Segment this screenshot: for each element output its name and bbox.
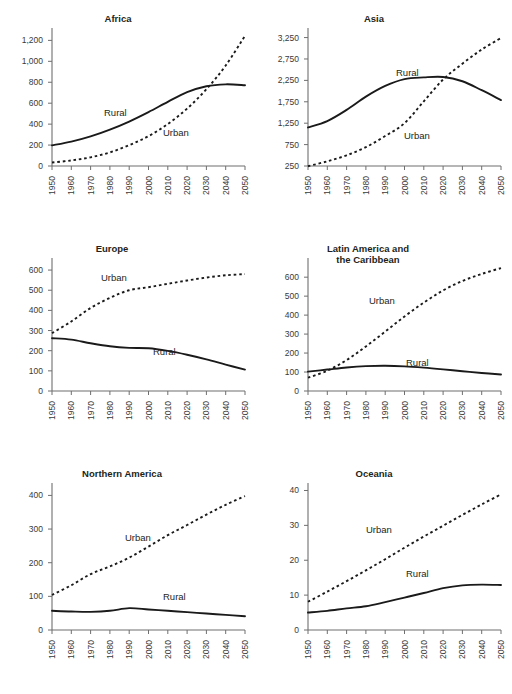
panel-title-line: the Caribbean: [336, 254, 400, 265]
y-tick-label: 2,750: [278, 54, 300, 64]
y-tick-label: 200: [29, 346, 43, 356]
y-tick-label: 1,200: [22, 35, 44, 45]
x-tick-label: 1960: [322, 401, 332, 420]
urban-series-label: Urban: [404, 130, 430, 141]
y-tick-label: 0: [294, 386, 299, 396]
y-tick-label: 200: [29, 140, 43, 150]
x-tick-label: 2010: [419, 401, 429, 420]
x-tick-label: 1990: [380, 401, 390, 420]
y-tick-label: 1,000: [22, 56, 44, 66]
x-tick-label: 1960: [66, 640, 76, 659]
chart-latin-america: Latin America andthe Caribbean0100200300…: [256, 230, 512, 455]
panel-asia: Asia2507501,2501,7502,2502,7503,25019501…: [256, 0, 512, 230]
panel-title: Africa: [105, 13, 133, 24]
x-tick-label: 2030: [457, 176, 467, 195]
x-tick-label: 2020: [182, 401, 192, 420]
x-tick-label: 1970: [86, 176, 96, 195]
y-tick-label: 200: [29, 558, 43, 568]
y-tick-label: 400: [285, 310, 299, 320]
x-tick-label: 1970: [342, 640, 352, 659]
x-tick-label: 1980: [361, 401, 371, 420]
x-tick-label: 1990: [124, 176, 134, 195]
rural-line: [52, 338, 245, 369]
panel-title: Asia: [364, 13, 385, 24]
x-tick-label: 2020: [438, 176, 448, 195]
x-tick-label: 2010: [419, 176, 429, 195]
rural-series-label: Rural: [104, 107, 127, 118]
x-tick-label: 2010: [163, 401, 173, 420]
y-tick-label: 0: [38, 161, 43, 171]
y-tick-label: 300: [29, 326, 43, 336]
urban-series-label: Urban: [366, 524, 392, 535]
x-tick-label: 2030: [201, 401, 211, 420]
x-tick-label: 2030: [201, 640, 211, 659]
x-tick-label: 2040: [477, 640, 487, 659]
panel-title: Europe: [96, 243, 129, 254]
urban-series-label: Urban: [369, 295, 395, 306]
urban-line: [308, 268, 501, 378]
x-tick-label: 2030: [457, 640, 467, 659]
x-tick-label: 2050: [496, 401, 506, 420]
rural-series-label: Rural: [396, 67, 419, 78]
panel-europe: Europe0100200300400500600195019601970198…: [0, 230, 256, 455]
y-tick-label: 1,750: [278, 97, 300, 107]
panel-africa: Africa02004006008001,0001,20019501960197…: [0, 0, 256, 230]
x-tick-label: 1990: [124, 640, 134, 659]
urban-line: [52, 36, 245, 163]
y-tick-label: 800: [29, 77, 43, 87]
rural-series-label: Rural: [153, 346, 176, 357]
y-tick-label: 400: [29, 490, 43, 500]
y-tick-label: 10: [290, 590, 300, 600]
x-tick-label: 1950: [303, 401, 313, 420]
x-tick-label: 1980: [105, 176, 115, 195]
y-tick-label: 3,250: [278, 33, 300, 43]
x-tick-label: 1960: [322, 176, 332, 195]
y-tick-label: 500: [29, 285, 43, 295]
x-tick-label: 1990: [124, 401, 134, 420]
rural-line: [52, 84, 245, 145]
x-tick-label: 1980: [361, 176, 371, 195]
x-tick-label: 2050: [496, 176, 506, 195]
x-tick-label: 2050: [240, 640, 250, 659]
x-tick-label: 2000: [144, 401, 154, 420]
x-tick-label: 2000: [400, 176, 410, 195]
x-tick-label: 2040: [221, 401, 231, 420]
chart-northern-america: Northern America010020030040019501960197…: [0, 455, 256, 694]
y-tick-label: 100: [285, 367, 299, 377]
x-tick-label: 2020: [182, 176, 192, 195]
y-tick-label: 30: [290, 520, 300, 530]
x-tick-label: 1950: [47, 401, 57, 420]
x-tick-label: 1990: [380, 176, 390, 195]
x-tick-label: 2020: [438, 401, 448, 420]
y-tick-label: 600: [285, 272, 299, 282]
x-tick-label: 2000: [144, 176, 154, 195]
panel-title: Oceania: [356, 468, 394, 479]
y-tick-label: 300: [285, 329, 299, 339]
rural-line: [308, 366, 501, 375]
urban-series-label: Urban: [125, 532, 151, 543]
panel-oceania: Oceania010203040195019601970198019902000…: [256, 455, 512, 694]
y-tick-label: 100: [29, 591, 43, 601]
y-tick-label: 0: [38, 386, 43, 396]
x-tick-label: 1960: [66, 176, 76, 195]
rural-line: [308, 585, 501, 613]
urban-series-label: Urban: [101, 272, 127, 283]
panel-title-line: Latin America and: [327, 243, 409, 254]
urban-line: [52, 274, 245, 333]
figure-root: Africa02004006008001,0001,20019501960197…: [0, 0, 512, 694]
rural-series-label: Rural: [163, 591, 186, 602]
x-tick-label: 2030: [457, 401, 467, 420]
y-tick-label: 200: [285, 348, 299, 358]
x-tick-label: 1990: [380, 640, 390, 659]
y-tick-label: 20: [290, 555, 300, 565]
y-tick-label: 600: [29, 265, 43, 275]
x-tick-label: 1950: [47, 176, 57, 195]
x-tick-label: 2000: [400, 401, 410, 420]
x-tick-label: 1950: [303, 640, 313, 659]
x-tick-label: 1960: [322, 640, 332, 659]
panel-grid: Africa02004006008001,0001,20019501960197…: [0, 0, 512, 694]
chart-africa: Africa02004006008001,0001,20019501960197…: [0, 0, 256, 230]
x-tick-label: 2000: [400, 640, 410, 659]
chart-oceania: Oceania010203040195019601970198019902000…: [256, 455, 512, 694]
x-tick-label: 1970: [86, 640, 96, 659]
